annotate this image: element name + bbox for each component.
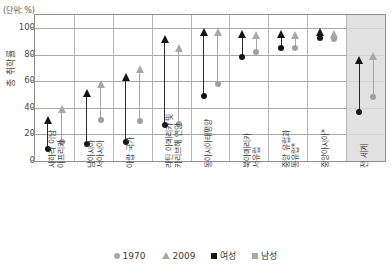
data-point-1970 [253, 49, 259, 55]
data-point-2009 [252, 31, 260, 39]
connector-stem [217, 32, 218, 84]
gridline [35, 55, 385, 56]
category-separator [152, 15, 153, 161]
data-point-2009 [330, 30, 338, 38]
legend-item[interactable]: 남성 [252, 249, 277, 262]
data-point-2009 [214, 28, 222, 36]
data-point-2009 [355, 56, 363, 64]
chart-legend: 19702009여성남성 [0, 249, 391, 262]
legend-label: 여성 [220, 249, 236, 262]
data-point-2009 [238, 30, 246, 38]
x-axis-label: 라틴 아메리카 및 카리브해 연안 [165, 114, 183, 168]
connector-stem [178, 48, 179, 124]
connector-stem [164, 39, 165, 125]
square-marker-icon [211, 253, 217, 259]
circle-marker-icon [114, 253, 120, 259]
category-separator [268, 15, 269, 161]
data-point-2009 [175, 44, 183, 52]
x-axis-label: 북아메리카 서유럽 [243, 133, 261, 168]
gridline [35, 81, 385, 82]
data-point-2009 [44, 116, 52, 124]
connector-stem [139, 69, 140, 121]
category-separator [191, 15, 192, 161]
data-point-2009 [136, 65, 144, 73]
legend-label: 2009 [173, 251, 196, 261]
category-separator [346, 15, 347, 161]
highlight-band [346, 15, 385, 161]
triangle-marker-icon [162, 252, 170, 259]
data-point-2009 [369, 52, 377, 60]
data-point-2009 [97, 80, 105, 88]
data-point-2009 [83, 89, 91, 97]
data-point-2009 [58, 105, 66, 113]
data-point-2009 [200, 28, 208, 36]
connector-stem [100, 84, 101, 120]
x-axis-label: 남아시아 서아시아 [87, 140, 105, 168]
data-point-1970 [239, 54, 245, 60]
connector-stem [86, 93, 87, 143]
category-separator [113, 15, 114, 161]
data-point-2009 [277, 30, 285, 38]
category-separator [307, 15, 308, 161]
data-point-2009 [291, 31, 299, 39]
chart-root: (단위: %) 총 취학률 020406080100 사하라 이남 아프리카남아… [0, 0, 391, 267]
connector-stem [125, 77, 126, 142]
legend-label: 남성 [261, 249, 277, 262]
square-marker-icon [252, 253, 258, 259]
data-point-1970 [292, 45, 298, 51]
legend-item[interactable]: 여성 [211, 249, 236, 262]
data-point-1970 [98, 117, 104, 123]
x-axis-label: 동아시아태평양 [204, 119, 213, 168]
x-axis-label: 전 세계 [360, 144, 369, 168]
category-separator [74, 15, 75, 161]
data-point-2009 [161, 35, 169, 43]
legend-label: 1970 [123, 251, 146, 261]
data-point-2009 [122, 73, 130, 81]
data-point-1970 [201, 93, 207, 99]
x-axis-label: 중앙아시아* [321, 129, 330, 168]
x-axis-label: 중앙 유럽과 동유럽* [282, 130, 300, 168]
connector-stem [373, 56, 374, 97]
data-point-1970 [356, 109, 362, 115]
category-separator [229, 15, 230, 161]
x-axis-label: 아랍 국가 [126, 137, 135, 168]
data-point-1970 [370, 94, 376, 100]
connector-stem [203, 32, 204, 96]
legend-item[interactable]: 1970 [114, 251, 146, 261]
connector-stem [359, 60, 360, 112]
x-axis-label: 사하라 이남 아프리카 [48, 130, 66, 168]
unit-note: (단위: %) [3, 4, 35, 15]
data-point-1970 [215, 81, 221, 87]
data-point-1970 [278, 45, 284, 51]
data-point-2009 [316, 28, 324, 36]
legend-item[interactable]: 2009 [162, 251, 196, 261]
data-point-1970 [137, 118, 143, 124]
gridline [35, 108, 385, 109]
